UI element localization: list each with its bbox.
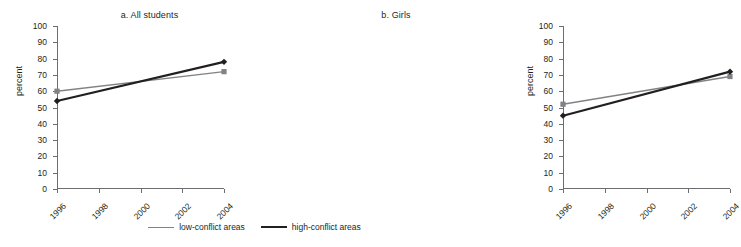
legend-line-icon-low-conflict bbox=[148, 227, 174, 228]
y-tick-label: 10 bbox=[38, 169, 47, 178]
series-line-high-conflict bbox=[563, 72, 730, 116]
x-tick-mark bbox=[647, 189, 648, 193]
legend-item-high-conflict: high-conflict areas bbox=[261, 222, 361, 232]
x-tick-mark bbox=[182, 189, 183, 193]
y-tick-label: 100 bbox=[33, 22, 47, 31]
y-tick-label: 0 bbox=[42, 185, 47, 194]
y-tick-label: 20 bbox=[544, 152, 553, 161]
x-tick-mark bbox=[141, 189, 142, 193]
x-tick-label: 1998 bbox=[595, 201, 615, 221]
y-tick-label: 30 bbox=[38, 136, 47, 145]
chart-panel-all-students: a. All students percent 0102030405060708… bbox=[0, 0, 255, 215]
data-point-marker-diamond bbox=[54, 98, 60, 104]
legend-label-low-conflict: low-conflict areas bbox=[179, 222, 245, 232]
series-line-low-conflict bbox=[563, 77, 730, 105]
y-tick-label: 100 bbox=[539, 22, 553, 31]
y-tick-label: 70 bbox=[38, 71, 47, 80]
x-tick-mark bbox=[730, 189, 731, 193]
y-tick-label: 40 bbox=[38, 120, 47, 129]
panel-b-y-axis-label: percent bbox=[525, 66, 535, 96]
panel-a-title: a. All students bbox=[0, 10, 277, 20]
x-tick-label: 1998 bbox=[89, 201, 109, 221]
y-tick-label: 50 bbox=[38, 104, 47, 113]
y-tick-label: 20 bbox=[38, 152, 47, 161]
panel-b-plot-area: 0102030405060708090100 19961998200020022… bbox=[563, 26, 730, 189]
series-line-high-conflict bbox=[57, 62, 224, 101]
y-tick-label: 70 bbox=[544, 71, 553, 80]
x-tick-mark bbox=[605, 189, 606, 193]
legend-label-high-conflict: high-conflict areas bbox=[292, 222, 361, 232]
x-tick-label: 1996 bbox=[554, 201, 574, 221]
x-tick-label: 2000 bbox=[131, 201, 151, 221]
x-tick-label: 1996 bbox=[48, 201, 68, 221]
data-point-marker-diamond bbox=[221, 59, 227, 65]
panel-b-title: b. Girls bbox=[255, 10, 523, 20]
y-tick-label: 10 bbox=[544, 169, 553, 178]
x-tick-mark bbox=[57, 189, 58, 193]
x-tick-label: 2000 bbox=[637, 201, 657, 221]
x-tick-mark bbox=[224, 189, 225, 193]
chart-panel-girls: b. Girls percent 0102030405060708090100 … bbox=[255, 0, 509, 215]
x-tick-mark bbox=[563, 189, 564, 193]
panel-b-series-lines bbox=[563, 26, 730, 189]
legend-item-low-conflict: low-conflict areas bbox=[148, 222, 245, 232]
data-point-marker-diamond bbox=[560, 112, 566, 118]
data-point-marker-diamond bbox=[727, 68, 733, 74]
chart-legend: low-conflict areas high-conflict areas bbox=[0, 222, 509, 232]
y-tick-label: 80 bbox=[38, 55, 47, 64]
x-tick-label: 2004 bbox=[721, 201, 741, 221]
panel-a-y-axis-label: percent bbox=[14, 66, 24, 96]
data-point-marker-square bbox=[221, 69, 226, 74]
y-tick-label: 0 bbox=[548, 185, 553, 194]
y-tick-label: 60 bbox=[38, 87, 47, 96]
panel-a-plot-area: 0102030405060708090100 19961998200020022… bbox=[57, 26, 224, 189]
y-tick-label: 90 bbox=[544, 38, 553, 47]
y-tick-label: 30 bbox=[544, 136, 553, 145]
x-tick-label: 2004 bbox=[215, 201, 235, 221]
y-tick-label: 60 bbox=[544, 87, 553, 96]
x-tick-mark bbox=[688, 189, 689, 193]
x-tick-label: 2002 bbox=[679, 201, 699, 221]
y-tick-label: 90 bbox=[38, 38, 47, 47]
data-point-marker-square bbox=[560, 102, 565, 107]
y-tick-label: 50 bbox=[544, 104, 553, 113]
data-point-marker-square bbox=[54, 89, 59, 94]
x-tick-label: 2002 bbox=[173, 201, 193, 221]
x-tick-mark bbox=[99, 189, 100, 193]
y-tick-label: 80 bbox=[544, 55, 553, 64]
y-tick-label: 40 bbox=[544, 120, 553, 129]
legend-line-icon-high-conflict bbox=[261, 226, 287, 228]
panel-a-series-lines bbox=[57, 26, 224, 189]
